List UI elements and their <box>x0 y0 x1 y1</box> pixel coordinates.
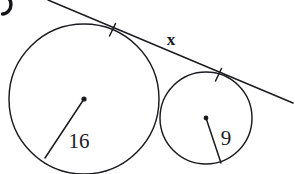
common-external-tangent-line <box>48 0 293 103</box>
large-circle-radius-label: 16 <box>69 129 90 153</box>
small-circle-radius-segment <box>206 118 221 163</box>
small-circle-center-dot <box>204 116 209 121</box>
geometry-figure: 16 9 x <box>0 0 295 174</box>
small-circle-radius-label: 9 <box>221 126 232 150</box>
problem-number-artifact <box>3 0 11 14</box>
large-circle-center-dot <box>81 96 86 101</box>
geometry-canvas: 16 9 x <box>0 0 295 174</box>
tangent-segment-label: x <box>167 30 176 49</box>
